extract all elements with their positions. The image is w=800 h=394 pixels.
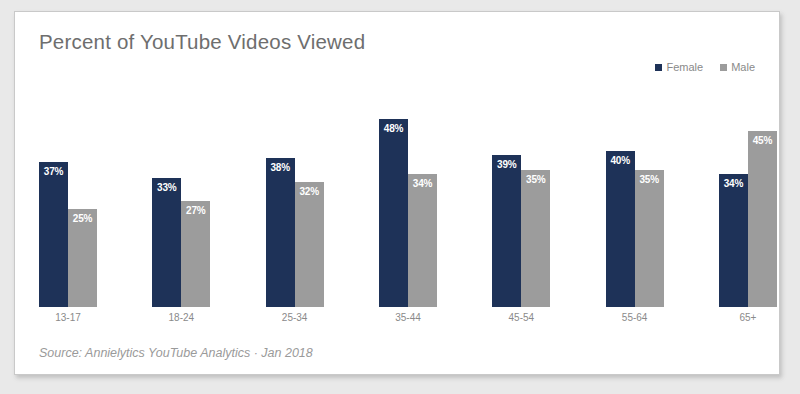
legend-label-female: Female xyxy=(666,61,703,73)
bar-female[interactable]: 48% xyxy=(379,119,408,307)
bar-value-label: 27% xyxy=(181,205,210,216)
bar-value-label: 35% xyxy=(635,174,664,185)
bar-female[interactable]: 33% xyxy=(152,178,181,307)
x-axis-labels: 13-1718-2425-3435-4445-5455-6465+ xyxy=(39,312,777,323)
bar-value-label: 34% xyxy=(719,178,748,189)
page-background: Percent of YouTube Videos Viewed Female … xyxy=(0,0,800,394)
bar-value-label: 37% xyxy=(39,166,68,177)
bar-male[interactable]: 25% xyxy=(68,209,97,307)
bar-pair: 38%32% xyxy=(266,92,324,307)
source-note: Source: Annielytics YouTube Analytics · … xyxy=(39,346,313,360)
bar-male[interactable]: 35% xyxy=(521,170,550,307)
bar-female[interactable]: 38% xyxy=(266,158,295,307)
x-axis-label: 55-64 xyxy=(606,312,664,323)
x-axis-label: 65+ xyxy=(719,312,777,323)
bar-value-label: 40% xyxy=(606,155,635,166)
bar-female[interactable]: 40% xyxy=(606,151,635,307)
x-axis-label: 13-17 xyxy=(39,312,97,323)
plot-area: 37%25%33%27%38%32%48%34%39%35%40%35%34%4… xyxy=(39,92,765,307)
bar-pair: 39%35% xyxy=(492,92,550,307)
bar-groups: 37%25%33%27%38%32%48%34%39%35%40%35%34%4… xyxy=(39,92,777,307)
legend-item-female[interactable]: Female xyxy=(655,61,703,73)
x-axis-label: 18-24 xyxy=(152,312,210,323)
bar-male[interactable]: 32% xyxy=(295,182,324,307)
legend-swatch-female xyxy=(655,64,662,71)
bar-group: 38%32% xyxy=(266,92,324,307)
bar-female[interactable]: 39% xyxy=(492,155,521,307)
x-axis-label: 35-44 xyxy=(379,312,437,323)
legend-swatch-male xyxy=(720,64,727,71)
bar-value-label: 45% xyxy=(748,135,777,146)
bar-group: 37%25% xyxy=(39,92,97,307)
chart-card: Percent of YouTube Videos Viewed Female … xyxy=(14,11,780,375)
bar-male[interactable]: 34% xyxy=(408,174,437,307)
x-axis-label: 25-34 xyxy=(266,312,324,323)
bar-value-label: 38% xyxy=(266,162,295,173)
bar-value-label: 39% xyxy=(492,159,521,170)
bar-female[interactable]: 34% xyxy=(719,174,748,307)
chart-legend: Female Male xyxy=(655,61,755,73)
bar-value-label: 33% xyxy=(152,182,181,193)
bar-value-label: 35% xyxy=(521,174,550,185)
bar-pair: 37%25% xyxy=(39,92,97,307)
bar-group: 33%27% xyxy=(152,92,210,307)
bar-male[interactable]: 27% xyxy=(181,201,210,307)
bar-value-label: 32% xyxy=(295,186,324,197)
bar-male[interactable]: 45% xyxy=(748,131,777,307)
bar-pair: 33%27% xyxy=(152,92,210,307)
bar-value-label: 48% xyxy=(379,123,408,134)
bar-group: 34%45% xyxy=(719,92,777,307)
bar-male[interactable]: 35% xyxy=(635,170,664,307)
chart-title: Percent of YouTube Videos Viewed xyxy=(39,30,365,54)
bar-pair: 40%35% xyxy=(606,92,664,307)
x-axis-label: 45-54 xyxy=(492,312,550,323)
bar-pair: 48%34% xyxy=(379,92,437,307)
bar-group: 40%35% xyxy=(606,92,664,307)
bar-pair: 34%45% xyxy=(719,92,777,307)
bar-female[interactable]: 37% xyxy=(39,162,68,307)
legend-label-male: Male xyxy=(731,61,755,73)
bar-group: 39%35% xyxy=(492,92,550,307)
bar-group: 48%34% xyxy=(379,92,437,307)
bar-value-label: 34% xyxy=(408,178,437,189)
bar-value-label: 25% xyxy=(68,213,97,224)
legend-item-male[interactable]: Male xyxy=(720,61,755,73)
